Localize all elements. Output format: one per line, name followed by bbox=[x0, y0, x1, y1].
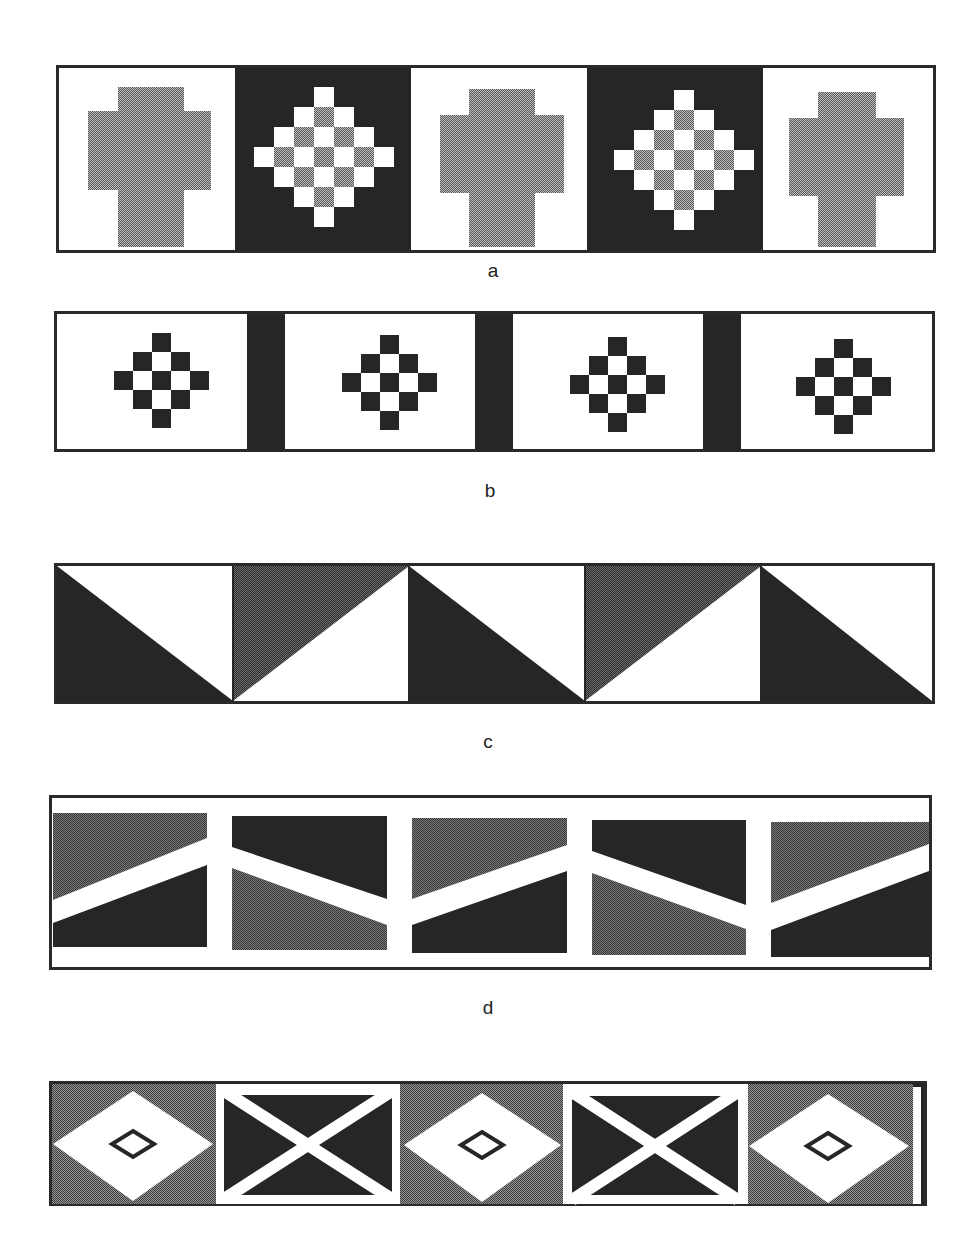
pattern-panel-b bbox=[54, 311, 936, 453]
pattern-panel-d bbox=[49, 795, 933, 971]
pattern-c-graphic bbox=[54, 563, 936, 705]
pattern-d-graphic bbox=[49, 795, 933, 971]
panel-label-c: c bbox=[468, 731, 508, 753]
panel-label-a: a bbox=[473, 260, 513, 282]
pattern-e-graphic bbox=[49, 1081, 929, 1207]
pattern-b-graphic bbox=[54, 311, 936, 453]
pattern-panel-e bbox=[49, 1081, 929, 1207]
panel-label-d: d bbox=[468, 997, 508, 1019]
cross-tile-5 bbox=[763, 68, 933, 250]
cross-tile-3 bbox=[411, 68, 587, 250]
cross-tile-1 bbox=[59, 68, 235, 250]
pattern-panel-c bbox=[54, 563, 936, 705]
pattern-a-graphic bbox=[56, 65, 936, 253]
pattern-panel-a bbox=[56, 65, 936, 253]
panel-label-b: b bbox=[470, 480, 510, 502]
